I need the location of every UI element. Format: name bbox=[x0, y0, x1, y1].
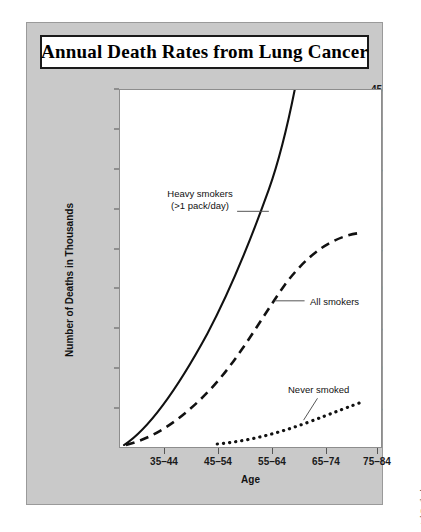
x-tick-mark-45-54 bbox=[218, 448, 219, 454]
figure-panel: Annual Death Rates from Lung Cancer Numb… bbox=[26, 22, 383, 505]
x-tick-label-75-84: 75–84 bbox=[363, 456, 391, 467]
plot-wrapper: Number of Deaths in Thousands 45 40 35 3… bbox=[93, 89, 382, 470]
x-tick-label-45-54: 45–54 bbox=[204, 456, 232, 467]
x-tick-label-55-64: 55–64 bbox=[258, 456, 286, 467]
x-tick-mark-35-44 bbox=[164, 448, 165, 454]
x-tick-mark-65-74 bbox=[326, 448, 327, 454]
annotation-heavy-smokers: Heavy smokers (>1 pack/day) bbox=[158, 188, 242, 212]
x-tick-mark-75-84 bbox=[377, 448, 378, 454]
title-plaque: Annual Death Rates from Lung Cancer bbox=[40, 35, 369, 69]
x-tick-mark-55-64 bbox=[272, 448, 273, 454]
chart-figure: Annual Death Rates from Lung Cancer Numb… bbox=[0, 0, 421, 532]
x-axis-title: Age bbox=[241, 474, 260, 485]
plot-area: Heavy smokers (>1 pack/day) All smokers … bbox=[119, 89, 382, 448]
annotation-never-smoked: Never smoked bbox=[288, 384, 349, 396]
y-axis-title: Number of Deaths in Thousands bbox=[64, 203, 75, 357]
x-tick-label-35-44: 35–44 bbox=[150, 456, 178, 467]
annotation-all-smokers: All smokers bbox=[310, 296, 359, 308]
page-title: Annual Death Rates from Lung Cancer bbox=[41, 41, 368, 63]
series-line-never-smoked bbox=[217, 401, 364, 444]
annotation-heavy-smokers-line1: Heavy smokers bbox=[158, 188, 242, 200]
x-tick-label-65-74: 65–74 bbox=[312, 456, 340, 467]
series-line-heavy-smokers bbox=[124, 90, 295, 445]
series-line-all-smokers bbox=[126, 233, 358, 445]
leader-line-never-smoked bbox=[304, 398, 318, 420]
x-axis: 35–44 45–54 55–64 65–74 75–84 Age bbox=[119, 448, 382, 508]
annotation-heavy-smokers-line2: (>1 pack/day) bbox=[158, 200, 242, 212]
